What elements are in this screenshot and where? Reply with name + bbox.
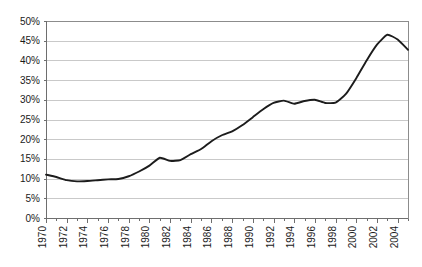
y-axis-tick-label: 25% [20,114,40,125]
x-axis-tick-label: 1988 [223,226,234,249]
chart-canvas: 0%5%10%15%20%25%30%35%40%45%50% 19701972… [0,0,422,267]
x-axis-tick-label: 1984 [182,226,193,249]
x-axis-tick-label: 1992 [265,226,276,249]
y-axis-tick-label: 45% [20,35,40,46]
y-axis-tick-label: 15% [20,153,40,164]
x-axis-tick-label: 1998 [327,226,338,249]
y-axis-tick-label: 35% [20,75,40,86]
x-axis-tick-label: 1972 [58,226,69,249]
x-axis-tick-label: 2004 [389,226,400,249]
y-axis-tick-label: 30% [20,94,40,105]
x-axis-tick-label: 2000 [347,226,358,249]
y-axis-tick-label: 20% [20,134,40,145]
x-axis-tick-label: 1974 [78,226,89,249]
x-axis-tick-label: 1976 [99,226,110,249]
y-axis-labels: 0%5%10%15%20%25%30%35%40%45%50% [20,16,40,224]
x-axis-tick-label: 1970 [37,226,48,249]
y-axis-tick-label: 50% [20,16,40,27]
y-axis-tick-label: 5% [26,193,41,204]
gridlines [46,22,408,219]
line-chart: 0%5%10%15%20%25%30%35%40%45%50% 19701972… [0,0,422,267]
x-axis-tick-label: 1986 [202,226,213,249]
x-axis-tick-label: 1978 [120,226,131,249]
x-axis-tick-label: 2002 [368,226,379,249]
x-axis-tick-label: 1982 [161,226,172,249]
x-axis-tick-label: 1996 [306,226,317,249]
x-axis-ticks [47,219,409,223]
y-axis-tick-label: 0% [26,213,41,224]
y-axis-tick-label: 40% [20,55,40,66]
x-axis-tick-label: 1990 [244,226,255,249]
y-axis-tick-label: 10% [20,173,40,184]
x-axis-tick-label: 1980 [140,226,151,249]
x-axis-tick-label: 1994 [285,226,296,249]
x-axis-labels: 1970197219741976197819801982198419861988… [37,226,400,249]
